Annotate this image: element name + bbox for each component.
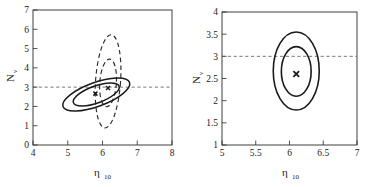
left-ytick-0: 0 [24, 140, 29, 150]
left-ytick-2: 2 [24, 102, 29, 112]
left-x-tick-labels: 4 5 6 7 8 [31, 148, 175, 158]
right-y-axis-title-text: N [190, 76, 202, 84]
left-ytick-1: 1 [24, 121, 29, 131]
right-plot-frame [222, 12, 357, 145]
left-y-axis-title-sub: ν [11, 70, 19, 73]
right-ytick-6: 4 [213, 7, 218, 17]
right-ytick-5: 3.5 [206, 30, 218, 40]
left-xtick-4: 8 [170, 148, 175, 158]
left-y-axis-title: N ν [4, 70, 19, 82]
right-xtick-0: 5 [220, 148, 225, 158]
right-plot-panel: 5 5.5 6 6.5 7 1 1.5 2 2.5 3 3.5 4 [184, 0, 368, 187]
left-xtick-1: 5 [65, 148, 70, 158]
left-plot-panel: 4 5 6 7 8 0 1 2 3 4 5 6 7 [0, 0, 184, 187]
left-x-axis-title-sub: 10 [104, 173, 112, 181]
right-y-tick-labels: 1 1.5 2 2.5 3 3.5 4 [206, 7, 218, 150]
figure-root: 4 5 6 7 8 0 1 2 3 4 5 6 7 [0, 0, 368, 187]
left-ytick-7: 7 [24, 5, 29, 15]
right-ytick-0: 1 [213, 140, 218, 150]
right-ytick-4: 3 [213, 52, 218, 62]
left-y-axis-title-text: N [4, 74, 16, 82]
right-ytick-1: 1.5 [206, 118, 218, 128]
right-plot-svg: 5 5.5 6 6.5 7 1 1.5 2 2.5 3 3.5 4 [184, 0, 368, 187]
right-ytick-3: 2.5 [206, 74, 218, 84]
left-ytick-3: 3 [24, 83, 29, 93]
right-x-axis-title-text: η [282, 166, 288, 178]
left-xtick-0: 4 [31, 148, 36, 158]
left-plot-frame [33, 10, 172, 145]
right-xtick-3: 6.5 [317, 148, 329, 158]
right-xtick-4: 7 [355, 148, 360, 158]
right-y-axis-title-sub: ν [197, 72, 205, 75]
right-ytick-2: 2 [213, 96, 218, 106]
right-x-axis-title-sub: 10 [292, 173, 300, 181]
right-xtick-2: 6 [287, 148, 292, 158]
left-plot-svg: 4 5 6 7 8 0 1 2 3 4 5 6 7 [0, 0, 184, 187]
left-xtick-3: 7 [135, 148, 140, 158]
left-x-axis-title-text: η [94, 166, 100, 178]
right-x-axis-title: η 10 [282, 166, 299, 181]
right-x-tick-labels: 5 5.5 6 6.5 7 [220, 148, 360, 158]
left-y-tick-labels: 0 1 2 3 4 5 6 7 [24, 5, 29, 150]
left-ytick-6: 6 [24, 25, 29, 35]
left-ytick-5: 5 [24, 44, 29, 54]
left-xtick-2: 6 [100, 148, 105, 158]
left-ytick-4: 4 [24, 63, 29, 73]
left-x-axis-title: η 10 [94, 166, 111, 181]
right-xtick-1: 5.5 [250, 148, 262, 158]
right-y-axis-title: N ν [190, 72, 205, 84]
